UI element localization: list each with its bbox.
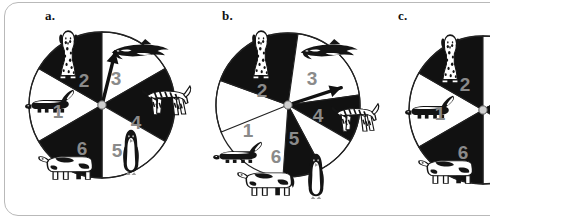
spinner-b-digit-2: 2 [257,80,268,101]
spinner-b-digit-3: 3 [307,68,318,89]
figure-canvas: a. b. c. 123456123456123456 [0,0,580,222]
spinner-b-digit-6: 6 [271,146,282,167]
spinner-c[interactable]: 123456 [405,35,571,184]
spinner-a-digit-5: 5 [112,140,123,161]
spinner-a-digit-3: 3 [111,68,122,89]
spinner-c-digit-4: 4 [512,117,523,138]
spinner-b-digit-4: 4 [313,105,324,126]
spinner-c-digit-1: 1 [435,103,446,124]
spinner-b-hub[interactable] [284,101,292,109]
spinner-c-digit-6: 6 [458,142,469,163]
spinner-a-digit-6: 6 [77,138,88,159]
spinner-a-digit-4: 4 [131,112,142,133]
spinner-b[interactable]: 123456 [213,31,379,199]
spinner-c-digit-3: 3 [495,72,506,93]
spinner-c-digit-2: 2 [460,74,471,95]
spinner-c-hub[interactable] [479,106,487,114]
spinners-svg: 123456123456123456 [0,0,580,222]
spinner-a-digit-2: 2 [79,70,90,91]
spinner-a-digit-1: 1 [53,101,64,122]
animal-skunk [213,142,262,163]
spinner-a-hub[interactable] [98,101,106,109]
spinner-c-digit-5: 5 [493,144,504,165]
spinner-b-digit-1: 1 [243,120,254,141]
spinner-b-digit-5: 5 [289,128,300,149]
spinner-a[interactable]: 123456 [25,31,191,179]
